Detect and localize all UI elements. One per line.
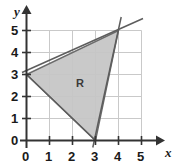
y-axis-label: y bbox=[14, 5, 20, 18]
coordinate-plane-figure: 5 4 3 2 1 0 0 1 2 3 4 5 y x R bbox=[0, 0, 175, 166]
y-tick-label-2: 2 bbox=[11, 90, 18, 103]
x-axis-arrowhead bbox=[156, 136, 165, 146]
x-tick-label-5: 5 bbox=[137, 150, 144, 163]
x-tick-label-4: 4 bbox=[114, 150, 121, 163]
region-label-R: R bbox=[76, 78, 84, 89]
x-tick-label-0: 0 bbox=[22, 150, 29, 163]
y-tick-label-0: 0 bbox=[11, 134, 18, 147]
x-tick-label-1: 1 bbox=[45, 150, 52, 163]
x-axis-label: x bbox=[165, 146, 172, 159]
y-tick-label-5: 5 bbox=[11, 24, 18, 37]
y-tick-label-3: 3 bbox=[11, 68, 18, 81]
x-tick-label-2: 2 bbox=[68, 150, 75, 163]
y-tick-label-4: 4 bbox=[11, 46, 18, 59]
y-tick-label-1: 1 bbox=[11, 112, 18, 125]
y-axis-arrowhead bbox=[22, 5, 32, 14]
x-tick-label-3: 3 bbox=[91, 150, 98, 163]
plot-svg bbox=[0, 0, 175, 166]
